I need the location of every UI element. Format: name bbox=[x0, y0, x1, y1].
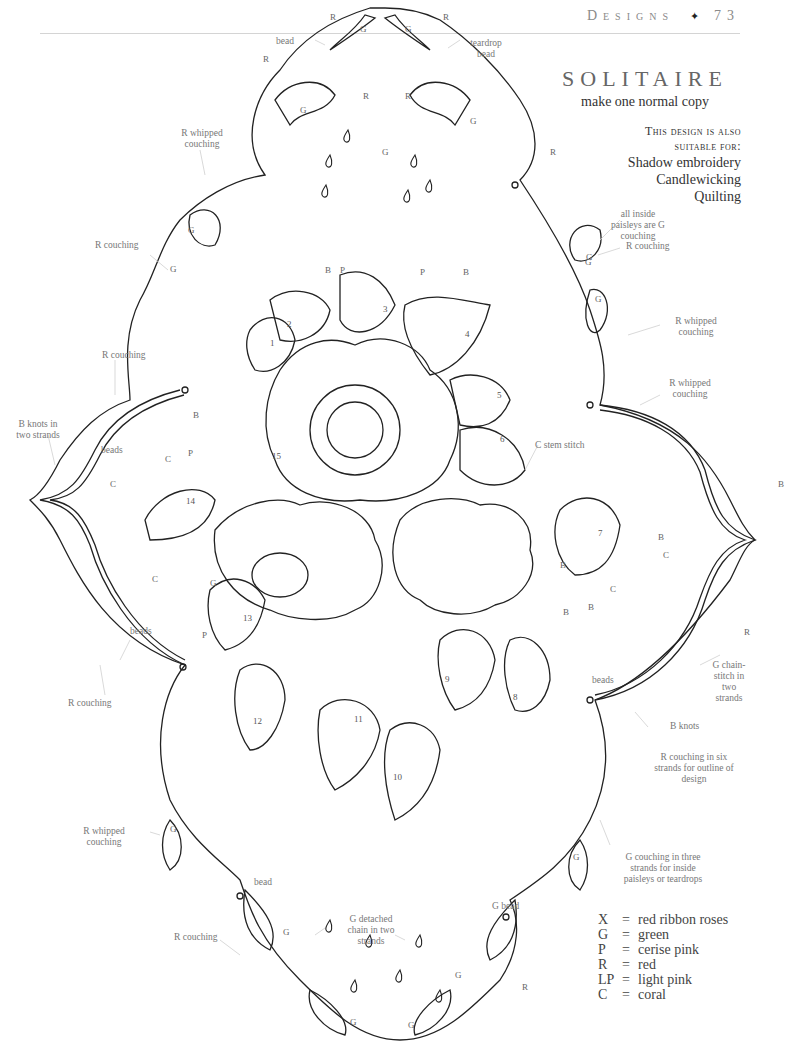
svg-text:13: 13 bbox=[243, 613, 253, 623]
svg-text:G: G bbox=[350, 1017, 357, 1027]
leaf-4 bbox=[404, 297, 490, 375]
note-r-couching-left-upper: R couching bbox=[95, 240, 139, 251]
svg-text:C: C bbox=[152, 574, 158, 584]
legend-row: R=red bbox=[598, 957, 728, 972]
svg-text:R: R bbox=[330, 12, 336, 22]
svg-text:P: P bbox=[202, 630, 207, 640]
svg-text:G: G bbox=[573, 852, 580, 862]
note-beads-left-lower: beads bbox=[130, 626, 152, 637]
svg-text:G: G bbox=[405, 24, 412, 34]
svg-text:R: R bbox=[363, 91, 369, 101]
note-g-detached-chain: G detached chain in two strands bbox=[340, 914, 402, 947]
svg-text:B: B bbox=[658, 532, 664, 542]
svg-text:15: 15 bbox=[272, 451, 282, 461]
svg-text:B: B bbox=[560, 560, 566, 570]
svg-text:R: R bbox=[744, 627, 750, 637]
note-r-whipped-couching-top-left: R whipped couching bbox=[176, 128, 228, 150]
note-teardrop-bead: teardrop bead bbox=[462, 38, 510, 60]
leaf-12 bbox=[235, 664, 285, 750]
leaf-6 bbox=[460, 427, 525, 485]
leaf-11 bbox=[318, 700, 380, 790]
svg-text:B: B bbox=[563, 607, 569, 617]
svg-text:C: C bbox=[663, 550, 669, 560]
svg-text:C: C bbox=[165, 454, 171, 464]
svg-text:B: B bbox=[193, 410, 199, 420]
svg-text:3: 3 bbox=[383, 304, 388, 314]
svg-text:4: 4 bbox=[465, 329, 470, 339]
svg-text:G: G bbox=[585, 257, 592, 267]
note-r-couching-left-mid: R couching bbox=[102, 350, 146, 361]
svg-text:G: G bbox=[170, 824, 177, 834]
note-g-chain-stitch: G chain-stitch in two strands bbox=[712, 660, 746, 704]
svg-text:G: G bbox=[455, 970, 462, 980]
leaf-8 bbox=[505, 637, 550, 711]
note-g-bead: G bead bbox=[492, 901, 519, 912]
svg-text:R: R bbox=[263, 54, 269, 64]
note-bead-top: bead bbox=[276, 36, 294, 47]
note-r-whipped-couching-right-2: R whipped couching bbox=[664, 378, 716, 400]
svg-text:C: C bbox=[610, 584, 616, 594]
note-beads-right: beads bbox=[592, 675, 614, 686]
svg-text:5: 5 bbox=[497, 390, 502, 400]
legend-row: LP=light pink bbox=[598, 972, 728, 987]
svg-text:R: R bbox=[550, 147, 556, 157]
note-r-whipped-couching-right-1: R whipped couching bbox=[670, 316, 722, 338]
outline-path bbox=[30, 8, 755, 1040]
svg-text:2: 2 bbox=[287, 319, 292, 329]
svg-text:B: B bbox=[325, 265, 331, 275]
leaf-5 bbox=[450, 375, 510, 427]
svg-text:7: 7 bbox=[598, 528, 603, 538]
svg-text:G: G bbox=[170, 264, 177, 274]
svg-text:12: 12 bbox=[253, 716, 262, 726]
svg-text:G: G bbox=[283, 927, 290, 937]
legend-row: G=green bbox=[598, 927, 728, 942]
svg-text:G: G bbox=[382, 147, 389, 157]
svg-text:B: B bbox=[778, 479, 784, 489]
note-b-knots-two-strands: B knots in two strands bbox=[12, 419, 64, 441]
svg-text:1: 1 bbox=[270, 338, 275, 348]
leaf-2 bbox=[270, 291, 330, 341]
note-r-couching-bottom: R couching bbox=[174, 932, 218, 943]
svg-text:8: 8 bbox=[513, 692, 518, 702]
svg-text:G: G bbox=[408, 1020, 415, 1030]
note-r-couching-right-upper: R couching bbox=[626, 241, 670, 252]
svg-text:6: 6 bbox=[500, 434, 505, 444]
svg-text:11: 11 bbox=[354, 714, 363, 724]
note-b-knots: B knots bbox=[670, 721, 699, 732]
svg-text:G: G bbox=[210, 578, 217, 588]
note-r-whipped-couching-bottom-left: R whipped couching bbox=[78, 826, 130, 848]
note-bead-bottom-left: bead bbox=[254, 877, 272, 888]
note-c-stem-stitch: C stem stitch bbox=[535, 440, 585, 451]
svg-text:P: P bbox=[340, 265, 345, 275]
note-inside-paisleys: all inside paisleys are G couching bbox=[608, 209, 668, 242]
note-beads-left-upper: beads bbox=[101, 445, 123, 456]
svg-text:C: C bbox=[110, 479, 116, 489]
svg-text:R: R bbox=[405, 91, 411, 101]
svg-text:G: G bbox=[188, 225, 195, 235]
svg-text:P: P bbox=[188, 448, 193, 458]
leaf-14 bbox=[145, 490, 215, 540]
note-r-couching-left-lower: R couching bbox=[68, 698, 112, 709]
svg-text:R: R bbox=[522, 982, 528, 992]
svg-text:B: B bbox=[588, 602, 594, 612]
legend-row: P=cerise pink bbox=[598, 942, 728, 957]
svg-text:G: G bbox=[595, 294, 602, 304]
note-g-couching-three-strands: G couching in three strands for inside p… bbox=[622, 852, 704, 885]
svg-text:9: 9 bbox=[445, 674, 450, 684]
svg-text:10: 10 bbox=[393, 772, 403, 782]
leaf-3 bbox=[340, 272, 395, 332]
embroidery-pattern-drawing: RR GG RRR GGR G GGG GG BPPB BR GG GGGG R… bbox=[0, 0, 795, 1056]
svg-text:G: G bbox=[470, 116, 477, 126]
svg-text:P: P bbox=[420, 267, 425, 277]
legend-row: X=red ribbon roses bbox=[598, 912, 728, 927]
color-legend: X=red ribbon roses G=green P=cerise pink… bbox=[598, 912, 728, 1002]
svg-text:G: G bbox=[300, 105, 307, 115]
svg-text:R: R bbox=[443, 12, 449, 22]
svg-text:G: G bbox=[360, 24, 367, 34]
note-r-couching-six-strands: R couching in six strands for outline of… bbox=[654, 752, 734, 785]
svg-text:14: 14 bbox=[186, 496, 196, 506]
leaf-13 bbox=[208, 579, 265, 650]
svg-text:B: B bbox=[463, 267, 469, 277]
legend-row: C=coral bbox=[598, 987, 728, 1002]
leaf-9 bbox=[438, 630, 495, 710]
